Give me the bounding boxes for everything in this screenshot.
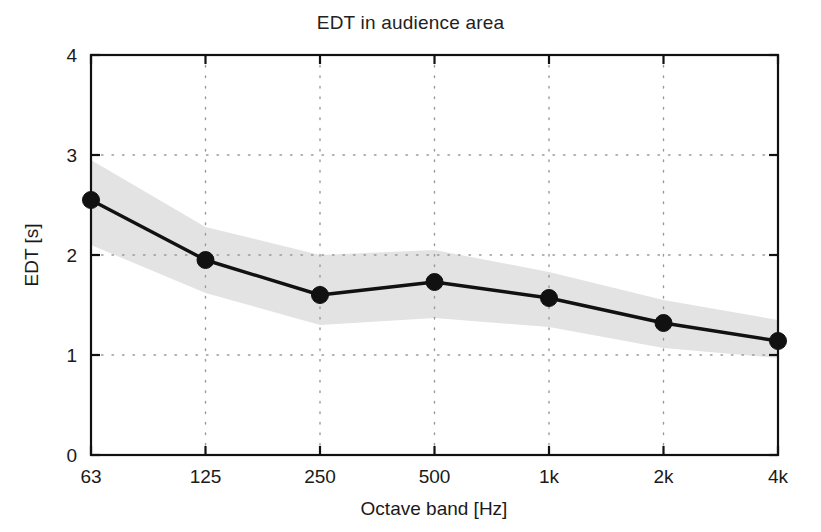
y-axis-title: EDT [s] (21, 224, 42, 287)
y-tick-label: 1 (66, 345, 77, 366)
y-tick-label: 0 (66, 445, 77, 466)
chart-figure: EDT in audience area 01234 631252505001k… (0, 0, 821, 532)
x-tick-label: 250 (304, 466, 336, 487)
y-tick-label: 4 (66, 45, 77, 66)
x-tick-label: 2k (653, 466, 674, 487)
x-tick-label: 125 (190, 466, 222, 487)
y-tick-label: 2 (66, 245, 77, 266)
x-tick-label: 1k (539, 466, 560, 487)
x-axis-title: Octave band [Hz] (361, 498, 508, 519)
x-tick-label: 500 (419, 466, 451, 487)
plot-area: 01234 631252505001k2k4k Octave band [Hz]… (0, 0, 821, 532)
x-tick-label: 63 (80, 466, 101, 487)
y-tick-label: 3 (66, 145, 77, 166)
y-tick-labels: 01234 (66, 45, 77, 466)
x-tick-labels: 631252505001k2k4k (80, 466, 788, 487)
x-tick-label: 4k (768, 466, 789, 487)
